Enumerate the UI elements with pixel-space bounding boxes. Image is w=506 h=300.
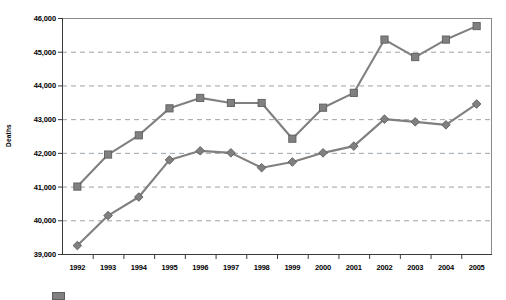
plot-background [62, 18, 492, 254]
y-axis-tick-label: 39,000 [12, 250, 56, 259]
y-axis-tick-label: 46,000 [12, 14, 56, 23]
data-point-square [381, 36, 388, 43]
y-axis-title: Deaths [5, 112, 12, 160]
y-axis-tick-label: 43,000 [12, 115, 56, 124]
x-axis-tick-label: 1999 [284, 263, 300, 272]
x-axis-tick-label: 2000 [315, 263, 331, 272]
data-point-square [74, 183, 81, 190]
data-point-square [197, 94, 204, 101]
data-point-square [166, 105, 173, 112]
y-axis-tick-label: 42,000 [12, 148, 56, 157]
data-point-square [135, 132, 142, 139]
data-point-square [258, 99, 265, 106]
x-axis-tick-label: 1993 [100, 263, 116, 272]
x-axis-tick-label: 2005 [469, 263, 485, 272]
data-point-square [412, 54, 419, 61]
data-point-square [319, 104, 326, 111]
x-axis-tick-label: 2001 [346, 263, 362, 272]
x-axis-tick-label: 2002 [377, 263, 393, 272]
x-axis-tick-label: 1994 [131, 263, 147, 272]
data-point-square [104, 151, 111, 158]
y-axis-tick-label: 40,000 [12, 216, 56, 225]
data-point-square [350, 89, 357, 96]
x-axis-tick-label: 1996 [192, 263, 208, 272]
data-point-square [289, 135, 296, 142]
y-axis-tick-label: 45,000 [12, 47, 56, 56]
legend-swatch [52, 292, 65, 300]
data-point-square [227, 99, 234, 106]
x-axis-tick-label: 1992 [69, 263, 85, 272]
x-axis-tick-label: 1998 [254, 263, 270, 272]
data-point-square [442, 36, 449, 43]
y-axis-tick-label: 44,000 [12, 81, 56, 90]
x-axis-tick-label: 2003 [407, 263, 423, 272]
y-axis-tick-label: 41,000 [12, 182, 56, 191]
data-point-square [473, 22, 480, 29]
x-axis-tick-label: 1997 [223, 263, 239, 272]
x-axis-tick-label: 1995 [162, 263, 178, 272]
x-axis-tick-label: 2004 [438, 263, 454, 272]
